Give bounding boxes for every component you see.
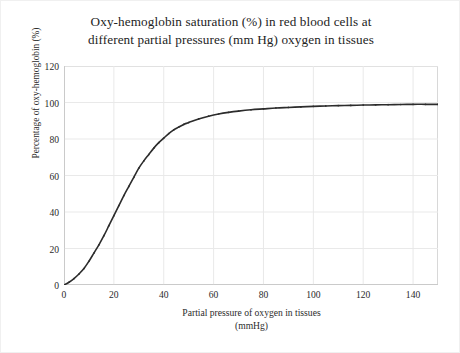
x-tick-100: 100 <box>293 289 333 300</box>
y-tick-120: 120 <box>25 61 59 72</box>
y-tick-40: 40 <box>25 207 59 218</box>
gridlines <box>64 66 438 285</box>
x-tick-60: 60 <box>194 289 234 300</box>
y-tick-60: 60 <box>25 170 59 181</box>
x-tick-80: 80 <box>243 289 283 300</box>
x-tick-140: 140 <box>393 289 433 300</box>
chart-figure: Oxy-hemoglobin saturation (%) in red blo… <box>0 0 460 353</box>
y-axis-tick-labels: 120100806040200 <box>21 66 59 285</box>
chart-title: Oxy-hemoglobin saturation (%) in red blo… <box>1 13 460 49</box>
chart-title-line-1: Oxy-hemoglobin saturation (%) in red blo… <box>1 13 460 31</box>
x-tick-120: 120 <box>343 289 383 300</box>
y-tick-100: 100 <box>25 97 59 108</box>
data-markers <box>64 103 438 285</box>
y-tick-20: 20 <box>25 243 59 254</box>
x-tick-40: 40 <box>144 289 184 300</box>
x-axis-title: Partial pressure of oxygen in tissues (m… <box>64 306 439 332</box>
data-series-curve <box>64 104 438 285</box>
x-axis-title-line-1: Partial pressure of oxygen in tissues <box>64 306 439 319</box>
plot-area <box>64 66 438 285</box>
plot-canvas <box>64 66 438 285</box>
x-axis-tick-labels: 020406080100120140 <box>64 289 438 303</box>
chart-title-line-2: different partial pressures (mm Hg) oxyg… <box>1 31 460 49</box>
x-axis-title-line-2: (mmHg) <box>64 319 439 332</box>
y-tick-80: 80 <box>25 134 59 145</box>
x-tick-0: 0 <box>44 289 84 300</box>
x-tick-20: 20 <box>94 289 134 300</box>
